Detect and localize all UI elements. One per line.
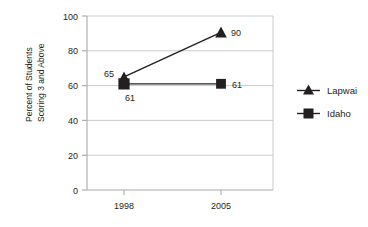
line-chart: 100 80 60 40 20 0 1998 2005 Percent of S… <box>0 0 368 227</box>
y-tick-label-40: 40 <box>68 116 78 126</box>
y-tick-label-60: 60 <box>68 81 78 91</box>
y-tick-label-80: 80 <box>68 46 78 56</box>
legend-label-lapwai: Lapwai <box>327 85 357 96</box>
x-tick-label-2005: 2005 <box>211 201 231 211</box>
legend-item-idaho[interactable]: Idaho <box>297 108 351 119</box>
point-label-lapwai-2005: 90 <box>231 28 241 38</box>
y-axis-title-line2: Scoring 3 and Above <box>36 43 46 122</box>
point-label-lapwai-1998: 65 <box>104 69 114 79</box>
legend-item-lapwai[interactable]: Lapwai <box>297 85 357 97</box>
marker-idaho-1998 <box>118 78 129 89</box>
point-label-idaho-1998: 61 <box>125 93 135 103</box>
legend-label-idaho: Idaho <box>327 108 351 119</box>
y-axis-title-line1: Percent of Students <box>24 47 34 122</box>
legend-marker-triangle-icon <box>303 85 314 95</box>
chart-canvas: 100 80 60 40 20 0 1998 2005 Percent of S… <box>0 0 368 227</box>
point-label-idaho-2005: 61 <box>232 80 242 90</box>
y-tick-label-20: 20 <box>68 151 78 161</box>
marker-idaho-2005 <box>216 79 226 89</box>
plot-area <box>87 16 273 190</box>
x-tick-label-1998: 1998 <box>114 201 134 211</box>
y-tick-label-100: 100 <box>63 12 78 22</box>
legend-marker-square-icon <box>304 109 314 119</box>
y-tick-label-0: 0 <box>73 186 78 196</box>
legend: Lapwai Idaho <box>297 85 357 120</box>
